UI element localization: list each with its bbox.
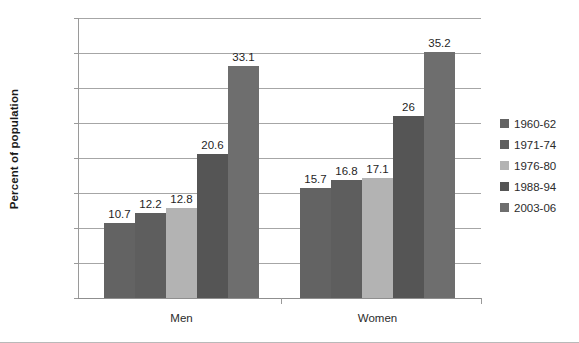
- y-axis-title: Percent of population: [0, 0, 28, 298]
- legend-item[interactable]: 1960-62: [500, 113, 556, 134]
- x-axis-category-label: Men: [122, 312, 242, 324]
- bar-group: 15.716.817.12635.2: [300, 18, 455, 298]
- legend-label: 2003-06: [514, 202, 556, 214]
- legend-swatch-icon: [500, 161, 509, 170]
- y-axis-title-text: Percent of population: [8, 89, 20, 209]
- plot-area: 10.712.212.820.633.115.716.817.12635.2: [78, 18, 481, 298]
- legend-swatch-icon: [500, 182, 509, 191]
- legend-item[interactable]: 1976-80: [500, 155, 556, 176]
- bar-value-label: 33.1: [222, 51, 266, 63]
- legend-item[interactable]: 1971-74: [500, 134, 556, 155]
- legend-label: 1971-74: [514, 139, 556, 151]
- legend-label: 1960-62: [514, 118, 556, 130]
- legend-swatch-icon: [500, 140, 509, 149]
- bar-chart-figure: Percent of population 0510152025303540 1…: [0, 0, 579, 343]
- bar[interactable]: [331, 180, 362, 298]
- legend-label: 1976-80: [514, 160, 556, 172]
- bar[interactable]: [362, 178, 393, 298]
- y-axis-line: [78, 18, 79, 299]
- x-axis-tick-mark: [281, 298, 282, 304]
- legend: 1960-621971-741976-801988-942003-06: [500, 113, 556, 218]
- bar[interactable]: [104, 223, 135, 298]
- legend-item[interactable]: 2003-06: [500, 197, 556, 218]
- bar[interactable]: [228, 66, 259, 298]
- bar[interactable]: [300, 188, 331, 298]
- bar-value-label: 35.2: [418, 37, 462, 49]
- legend-swatch-icon: [500, 119, 509, 128]
- x-axis-tick-mark: [481, 298, 482, 304]
- x-axis-category-label: Women: [318, 312, 438, 324]
- bar[interactable]: [424, 52, 455, 298]
- bar[interactable]: [197, 154, 228, 298]
- x-axis-line: [78, 298, 481, 299]
- legend-swatch-icon: [500, 203, 509, 212]
- legend-label: 1988-94: [514, 181, 556, 193]
- bar[interactable]: [393, 116, 424, 298]
- bar[interactable]: [166, 208, 197, 298]
- bar-group: 10.712.212.820.633.1: [104, 18, 259, 298]
- bar[interactable]: [135, 213, 166, 298]
- legend-item[interactable]: 1988-94: [500, 176, 556, 197]
